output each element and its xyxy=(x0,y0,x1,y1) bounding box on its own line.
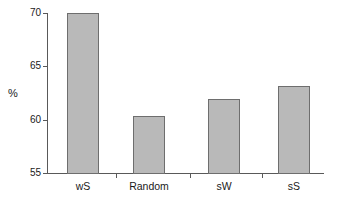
bar-sw xyxy=(208,99,240,174)
x-tick-mark-2 xyxy=(190,174,191,178)
y-tick-mark-60 xyxy=(43,120,48,121)
bar-chart: % 70 65 60 55 wS Random sW sS xyxy=(0,0,338,203)
y-tick-mark-70 xyxy=(43,13,48,14)
x-tick-label-sw: sW xyxy=(198,180,250,192)
bar-ws xyxy=(67,13,99,174)
y-tick-label-60: 60 xyxy=(20,115,41,125)
x-tick-mark-3 xyxy=(262,174,263,178)
x-tick-label-ws: wS xyxy=(57,180,109,192)
y-axis-title: % xyxy=(8,87,30,99)
y-axis-line xyxy=(47,13,48,174)
y-tick-label-55: 55 xyxy=(20,168,41,178)
x-tick-label-random: Random xyxy=(119,180,179,192)
bar-ss xyxy=(278,86,310,174)
x-tick-mark-1 xyxy=(116,174,117,178)
y-tick-mark-65 xyxy=(43,66,48,67)
y-tick-label-65: 65 xyxy=(20,61,41,71)
y-tick-label-70: 70 xyxy=(20,8,41,18)
bar-random xyxy=(133,116,165,174)
x-tick-label-ss: sS xyxy=(268,180,320,192)
